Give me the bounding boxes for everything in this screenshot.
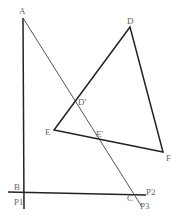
- label-a: A: [19, 6, 26, 16]
- label-p2: P2: [146, 187, 156, 197]
- label-e-prime: E': [96, 129, 103, 139]
- label-d: D: [127, 16, 134, 26]
- geometry-diagram: A B P1 C P2 P3 D E F D' E': [0, 0, 179, 220]
- label-b: B: [14, 182, 20, 192]
- label-c: C: [127, 193, 133, 203]
- label-p3: P3: [140, 201, 150, 211]
- label-d-prime: D': [78, 97, 86, 107]
- segment-a-p1: [23, 18, 24, 209]
- label-p1: P1: [14, 197, 24, 207]
- label-f: F: [166, 153, 171, 163]
- triangle-def: [54, 27, 163, 152]
- segment-b-p2: [8, 192, 146, 195]
- label-e: E: [45, 127, 51, 137]
- segment-a-p3: [23, 18, 142, 207]
